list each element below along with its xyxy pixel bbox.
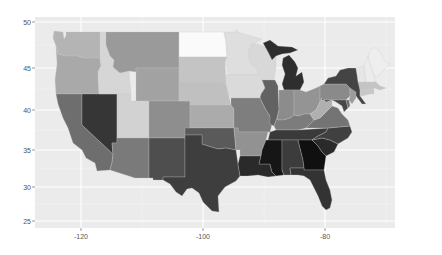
y-tick-label: 25 bbox=[23, 218, 31, 225]
state-south-dakota bbox=[179, 57, 227, 84]
state-new-mexico bbox=[149, 138, 185, 180]
state-pennsylvania bbox=[320, 84, 350, 102]
state-wyoming bbox=[136, 68, 179, 101]
state-iowa bbox=[226, 75, 265, 98]
y-tick-label: 30 bbox=[23, 184, 31, 191]
state-north-dakota bbox=[179, 32, 227, 57]
us-choropleth-map: 50 45 40 35 30 25 -120 -100 -80 bbox=[0, 0, 442, 255]
y-tick-label: 50 bbox=[23, 19, 31, 26]
state-kansas bbox=[190, 105, 234, 128]
y-tick-label: 40 bbox=[23, 107, 31, 114]
x-axis: -120 -100 -80 bbox=[74, 228, 330, 240]
state-indiana bbox=[277, 90, 294, 120]
y-tick-label: 35 bbox=[23, 147, 31, 154]
state-colorado bbox=[149, 101, 190, 138]
x-tick-label: -80 bbox=[320, 233, 330, 240]
state-arizona bbox=[110, 138, 149, 178]
state-washington bbox=[53, 31, 100, 58]
x-tick-label: -120 bbox=[74, 233, 88, 240]
state-rhode-island bbox=[370, 88, 374, 94]
x-tick-label: -100 bbox=[196, 233, 210, 240]
y-axis: 50 45 40 35 30 25 bbox=[23, 19, 35, 225]
state-montana bbox=[106, 32, 179, 73]
y-tick-label: 45 bbox=[23, 65, 31, 72]
